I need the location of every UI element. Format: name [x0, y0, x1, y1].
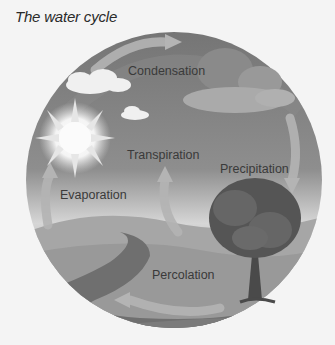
label-percolation: Percolation: [152, 268, 215, 282]
label-transpiration: Transpiration: [127, 148, 200, 162]
diagram-title: The water cycle: [15, 8, 117, 25]
label-evaporation: Evaporation: [60, 188, 127, 202]
sun-icon: [35, 98, 115, 178]
label-condensation: Condensation: [128, 64, 205, 78]
water-cycle-diagram: The water cycle Condensation Transpirati…: [0, 0, 335, 345]
label-precipitation: Precipitation: [220, 162, 289, 176]
